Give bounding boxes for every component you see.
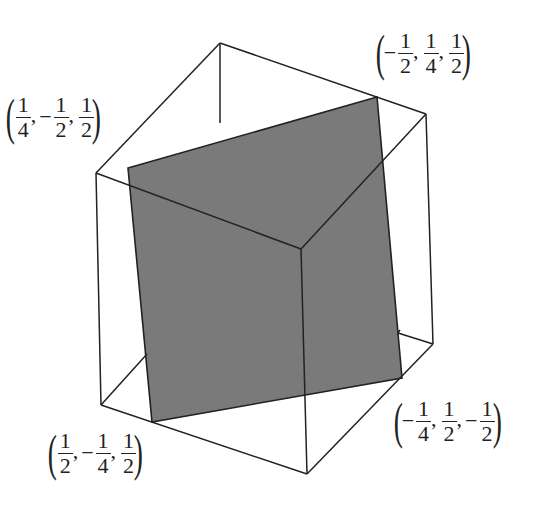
coord-y: − 12 bbox=[38, 93, 68, 140]
coord-x: − 12 bbox=[383, 29, 413, 76]
coord-x: 14 bbox=[13, 93, 31, 140]
coord-z: − 12 bbox=[464, 397, 494, 444]
coord-y: 12 bbox=[439, 397, 457, 444]
left-paren: ( bbox=[376, 28, 385, 78]
right-paren: ) bbox=[462, 28, 471, 78]
coord-y: − 14 bbox=[80, 429, 110, 476]
left-paren: ( bbox=[48, 428, 57, 478]
coord-x: − 14 bbox=[401, 397, 431, 444]
right-paren: ) bbox=[134, 428, 143, 478]
cube-back-edge-lower-right bbox=[398, 330, 433, 344]
vertex-label-bottom-left: ( 12 , − 14 , 12 ) bbox=[44, 428, 147, 478]
cube-edge-left bbox=[96, 173, 101, 405]
left-paren: ( bbox=[394, 396, 403, 446]
vertex-label-bottom-right: ( − 14 , 12 , − 12 ) bbox=[390, 396, 505, 446]
cross-section-plane bbox=[128, 97, 402, 422]
vertex-label-top-right: ( − 12 , 14 , 12 ) bbox=[372, 28, 475, 78]
left-paren: ( bbox=[6, 92, 15, 142]
coord-x: 12 bbox=[55, 429, 73, 476]
cube-back-edge-lower-left bbox=[101, 354, 147, 405]
right-paren: ) bbox=[92, 92, 101, 142]
right-paren: ) bbox=[492, 396, 501, 446]
coord-y: 14 bbox=[421, 29, 439, 76]
cube-edge-right bbox=[426, 114, 433, 344]
vertex-label-top-left: ( 14 , − 12 , 12 ) bbox=[2, 92, 105, 142]
